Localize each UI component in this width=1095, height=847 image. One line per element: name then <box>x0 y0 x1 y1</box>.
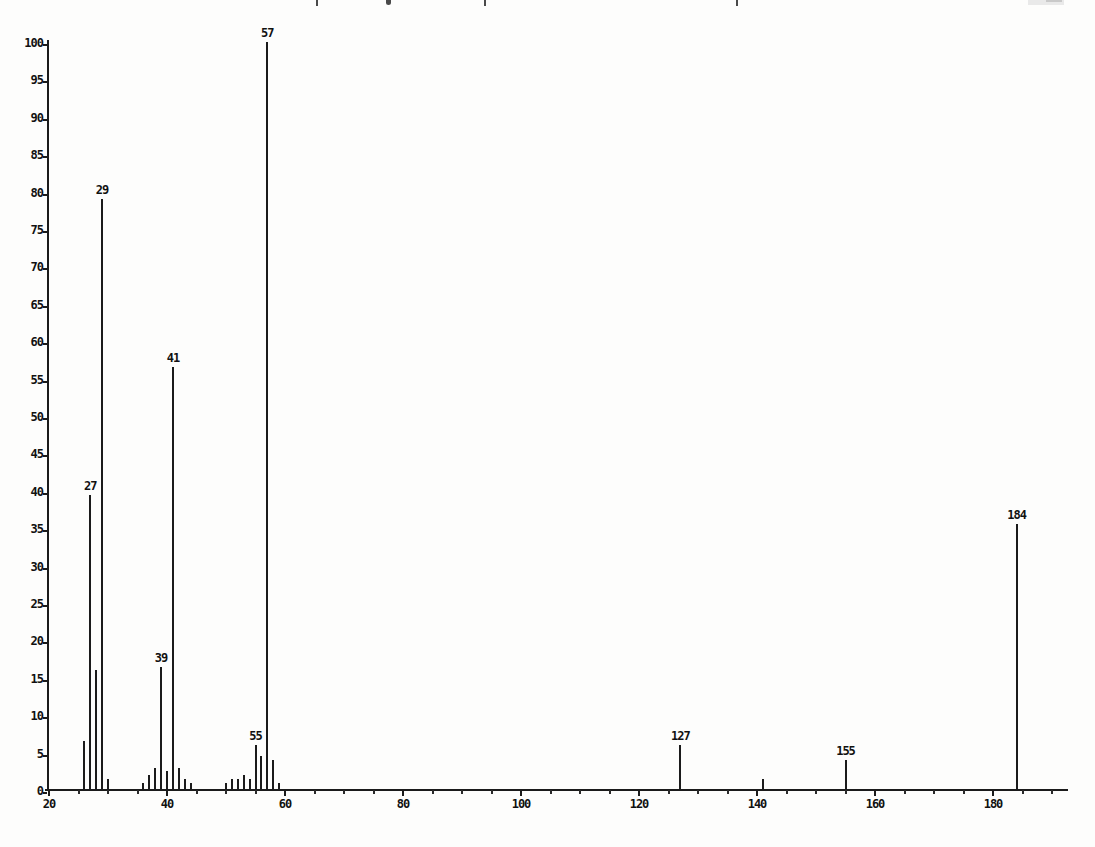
y-axis-tick-label: 25 <box>13 598 43 610</box>
x-axis-tick-minor <box>579 790 581 794</box>
y-axis-tick-label: 75 <box>13 224 43 236</box>
peak-mz-26 <box>83 741 85 790</box>
y-axis-tick-label: 15 <box>13 673 43 685</box>
x-axis-tick-major <box>402 789 404 796</box>
peak-mz-184 <box>1016 524 1018 790</box>
peak-label-155: 155 <box>829 745 863 757</box>
y-axis-tick <box>43 156 47 158</box>
y-axis-tick <box>43 680 47 682</box>
scanned-mass-spectrum-page: 0510152025303540455055606570758085909510… <box>0 0 1095 847</box>
x-axis-tick-label: 80 <box>386 798 420 810</box>
y-axis-tick-label: 55 <box>13 374 43 386</box>
peak-mz-50 <box>225 783 227 790</box>
cropped-text-fragment <box>736 0 738 6</box>
y-axis-tick <box>43 343 47 345</box>
x-axis-tick-minor <box>727 790 729 794</box>
y-axis-tick <box>43 194 47 196</box>
x-axis-tick-minor <box>904 790 906 794</box>
peak-mz-58 <box>272 760 274 790</box>
peak-mz-41 <box>172 367 174 790</box>
x-axis-tick-minor <box>196 790 198 794</box>
peak-mz-51 <box>231 779 233 790</box>
y-axis-tick-label: 100 <box>13 37 43 49</box>
peak-mz-55 <box>255 745 257 790</box>
y-axis-tick-label: 90 <box>13 112 43 124</box>
x-axis-tick-minor <box>343 790 345 794</box>
peak-mz-155 <box>845 760 847 790</box>
peak-label-41: 41 <box>156 352 190 364</box>
y-axis-tick <box>43 717 47 719</box>
x-axis-tick-minor <box>963 790 965 794</box>
y-axis-tick-label: 85 <box>13 149 43 161</box>
x-axis-tick-minor <box>550 790 552 794</box>
y-axis-tick <box>43 755 47 757</box>
y-axis-tick-label: 5 <box>13 748 43 760</box>
y-axis-tick-label: 45 <box>13 448 43 460</box>
x-axis-tick-minor <box>491 790 493 794</box>
y-axis-tick-label: 80 <box>13 187 43 199</box>
y-axis-tick <box>43 44 47 46</box>
y-axis-tick-label: 10 <box>13 710 43 722</box>
x-axis-tick-label: 180 <box>976 798 1010 810</box>
y-axis-tick-label: 0 <box>13 785 43 797</box>
cropped-text-fragment <box>1046 0 1062 2</box>
peak-mz-39 <box>160 667 162 790</box>
x-axis-tick-label: 60 <box>268 798 302 810</box>
x-axis-tick-label: 140 <box>740 798 774 810</box>
x-axis-tick-minor <box>373 790 375 794</box>
peak-mz-40 <box>166 771 168 790</box>
x-axis-tick-label: 120 <box>622 798 656 810</box>
x-axis-tick-minor <box>137 790 139 794</box>
x-axis-tick-minor <box>609 790 611 794</box>
x-axis-tick-major <box>756 789 758 796</box>
x-axis-line <box>45 789 1068 791</box>
peak-mz-54 <box>249 779 251 790</box>
y-axis-tick <box>43 119 47 121</box>
peak-mz-44 <box>190 783 192 790</box>
x-axis-tick-minor <box>78 790 80 794</box>
peak-label-57: 57 <box>250 27 284 39</box>
x-axis-tick-major <box>874 789 876 796</box>
cropped-text-fragment <box>316 0 318 6</box>
x-axis-tick-minor <box>668 790 670 794</box>
x-axis-tick-label: 160 <box>858 798 892 810</box>
x-axis-tick-major <box>638 789 640 796</box>
x-axis-tick-major <box>520 789 522 796</box>
peak-mz-57 <box>266 42 268 790</box>
x-axis-tick-minor <box>1022 790 1024 794</box>
y-axis-tick-label: 35 <box>13 523 43 535</box>
peak-label-127: 127 <box>663 730 697 742</box>
x-axis-tick-minor <box>786 790 788 794</box>
y-axis-tick <box>43 642 47 644</box>
y-axis-tick <box>43 530 47 532</box>
peak-mz-52 <box>237 779 239 790</box>
x-axis-tick-major <box>48 789 50 796</box>
x-axis-tick-minor <box>815 790 817 794</box>
x-axis-tick-minor <box>255 790 257 794</box>
y-axis-tick <box>43 568 47 570</box>
cropped-text-fragment <box>386 0 391 5</box>
y-axis-tick-label: 70 <box>13 261 43 273</box>
x-axis-tick-minor <box>225 790 227 794</box>
peak-label-184: 184 <box>1000 509 1034 521</box>
x-axis-tick-minor <box>697 790 699 794</box>
peak-label-29: 29 <box>85 184 119 196</box>
peak-mz-127 <box>679 745 681 790</box>
y-axis-tick <box>43 81 47 83</box>
y-axis-tick <box>43 493 47 495</box>
y-axis-tick-label: 65 <box>13 299 43 311</box>
x-axis-tick-major <box>166 789 168 796</box>
y-axis-tick-label: 20 <box>13 635 43 647</box>
y-axis-tick <box>43 455 47 457</box>
x-axis-tick-minor <box>432 790 434 794</box>
y-axis-tick-label: 95 <box>13 74 43 86</box>
peak-mz-59 <box>278 783 280 790</box>
peak-mz-30 <box>107 779 109 790</box>
x-axis-tick-minor <box>845 790 847 794</box>
peak-mz-141 <box>762 779 764 790</box>
y-axis-tick <box>43 605 47 607</box>
peak-mz-42 <box>178 768 180 790</box>
x-axis-tick-minor <box>461 790 463 794</box>
y-axis-tick-label: 60 <box>13 336 43 348</box>
y-axis-tick <box>43 268 47 270</box>
